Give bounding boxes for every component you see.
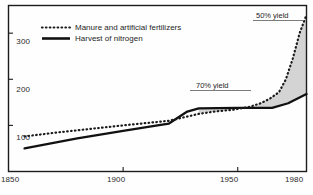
chart-figure: 300 200 100 1850 1900 1950 1980 Manure a… xyxy=(0,0,313,195)
legend-label-harvest-of-nitrogen: Harvest of nitrogen xyxy=(75,34,143,43)
shaded-gap-region xyxy=(199,15,307,114)
x-tick-label-1850: 1850 xyxy=(1,175,19,184)
annotation-50-percent-yield: 50% yield xyxy=(256,11,289,20)
x-tick-label-1950: 1950 xyxy=(220,175,238,184)
series-manure-and-artificial-fertilizers xyxy=(25,15,307,137)
legend-label-manure-and-artificial-fertilizers: Manure and artificial fertilizers xyxy=(75,23,181,32)
y-tick-label-200: 200 xyxy=(4,85,30,94)
x-tick-label-1900: 1900 xyxy=(107,175,125,184)
x-tick-label-1980: 1980 xyxy=(285,175,303,184)
annotation-70-percent-yield: 70% yield xyxy=(196,81,229,90)
y-tick-label-100: 100 xyxy=(4,133,30,142)
y-tick-label-300: 300 xyxy=(4,37,30,46)
